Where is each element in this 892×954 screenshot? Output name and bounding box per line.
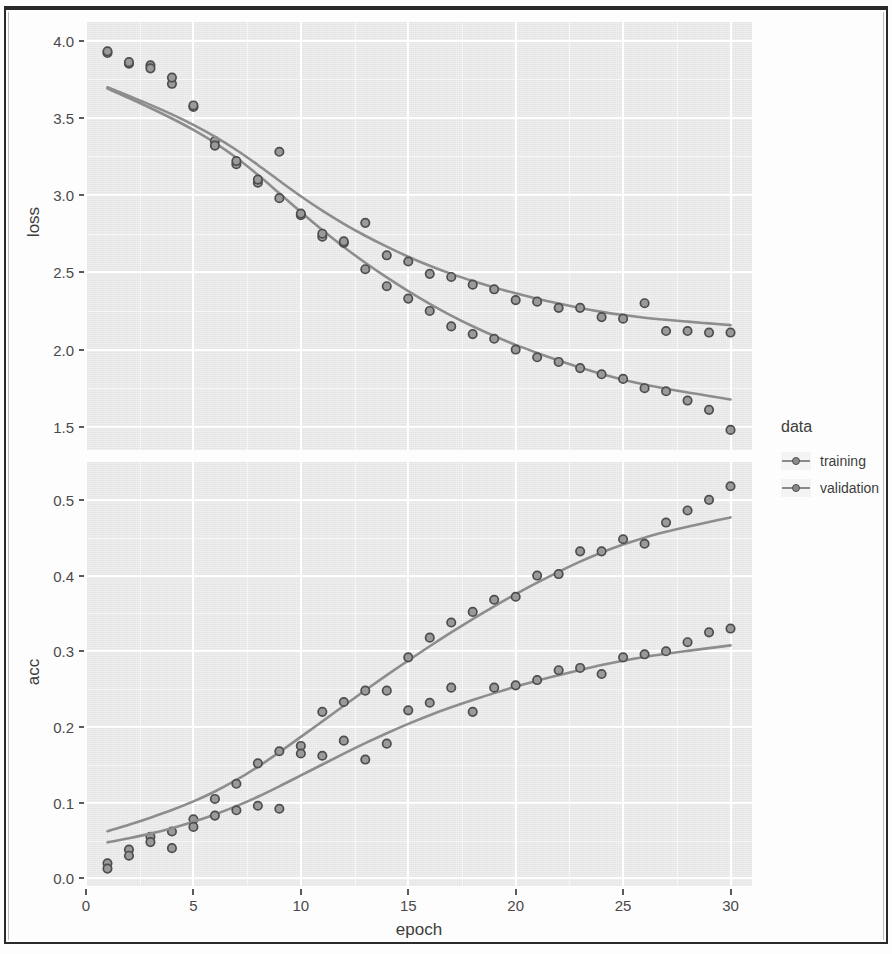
data-point (254, 759, 262, 767)
x-axis-tick-mark (300, 889, 302, 895)
x-axis-tick-mark (515, 889, 517, 895)
data-point (576, 304, 584, 312)
data-point (726, 328, 734, 336)
y-axis-tick-label: 0.5 (20, 491, 74, 508)
data-point (447, 322, 455, 330)
data-point (146, 64, 154, 72)
y-axis-tick-mark (79, 40, 84, 42)
y-axis-tick-label: 1.5 (20, 418, 74, 435)
data-point (640, 384, 648, 392)
legend-item-training[interactable]: training (781, 447, 889, 474)
data-point (340, 736, 348, 744)
panel-acc (86, 462, 752, 886)
data-point (361, 219, 369, 227)
data-point (383, 251, 391, 259)
x-axis-tick-label: 5 (173, 897, 213, 914)
data-point (683, 327, 691, 335)
data-point (619, 314, 627, 322)
x-axis-tick-mark (192, 889, 194, 895)
data-point (511, 296, 519, 304)
data-point (576, 364, 584, 372)
data-point (576, 664, 584, 672)
data-point (404, 706, 412, 714)
y-axis-tick-mark (79, 575, 84, 577)
data-point (297, 749, 305, 757)
data-point (726, 624, 734, 632)
data-point (146, 838, 154, 846)
data-point (597, 547, 605, 555)
data-point (125, 58, 133, 66)
data-point (211, 795, 219, 803)
series-training (103, 482, 734, 867)
data-point (705, 406, 713, 414)
data-point (705, 628, 713, 636)
data-point (619, 535, 627, 543)
data-point (490, 285, 498, 293)
data-point (383, 739, 391, 747)
data-point (619, 375, 627, 383)
data-point (125, 852, 133, 860)
legend-item-label: validation (820, 480, 879, 496)
x-axis-title: epoch (86, 920, 752, 940)
y-axis-tick-mark (79, 802, 84, 804)
line-point-icon (781, 479, 811, 497)
y-axis-tick-mark (79, 271, 84, 273)
data-point (232, 780, 240, 788)
data-point (275, 805, 283, 813)
y-axis-tick-label: 2.0 (20, 341, 74, 358)
data-point (447, 618, 455, 626)
data-point (426, 699, 434, 707)
data-point (447, 683, 455, 691)
data-point (619, 653, 627, 661)
data-point (103, 864, 111, 872)
legend-key-point (792, 457, 800, 465)
x-axis-tick-label: 30 (711, 897, 751, 914)
data-point (469, 280, 477, 288)
data-point (490, 596, 498, 604)
data-point (211, 811, 219, 819)
data-point (383, 686, 391, 694)
x-axis-tick-mark (622, 889, 624, 895)
data-point (554, 358, 562, 366)
legend: data trainingvalidation (781, 418, 889, 501)
data-point (211, 141, 219, 149)
data-point (726, 482, 734, 490)
series-validation (103, 624, 734, 872)
data-point (318, 708, 326, 716)
data-point (683, 506, 691, 514)
data-point (426, 270, 434, 278)
data-point (533, 676, 541, 684)
data-point (383, 282, 391, 290)
y-axis-tick-label: 0.2 (20, 719, 74, 736)
line-point-icon (781, 452, 811, 470)
x-axis-tick-mark (730, 889, 732, 895)
data-point (469, 330, 477, 338)
data-point (490, 683, 498, 691)
y-axis-tick-label: 0.4 (20, 567, 74, 584)
y-axis-tick-mark (79, 650, 84, 652)
data-point (404, 653, 412, 661)
data-point (683, 396, 691, 404)
y-axis-tick-mark (79, 194, 84, 196)
trend-line (107, 87, 730, 325)
y-axis-tick-mark (79, 349, 84, 351)
data-point (533, 571, 541, 579)
data-point (511, 681, 519, 689)
series-validation (103, 47, 734, 337)
y-axis-tick-mark (79, 426, 84, 428)
data-point (168, 73, 176, 81)
data-point (232, 806, 240, 814)
x-axis-tick-label: 25 (603, 897, 643, 914)
x-axis-tick-label: 15 (388, 897, 428, 914)
data-point (404, 294, 412, 302)
data-point (426, 633, 434, 641)
legend-item-validation[interactable]: validation (781, 474, 889, 501)
data-point (662, 387, 670, 395)
plot-area: 4.03.53.02.52.01.5 loss 0.50.40.30.20.10… (0, 0, 892, 954)
data-point (533, 297, 541, 305)
legend-title: data (781, 418, 889, 436)
legend-items: trainingvalidation (781, 447, 889, 501)
data-point (511, 593, 519, 601)
y-axis-tick-label: 0.0 (20, 870, 74, 887)
data-point (404, 257, 412, 265)
